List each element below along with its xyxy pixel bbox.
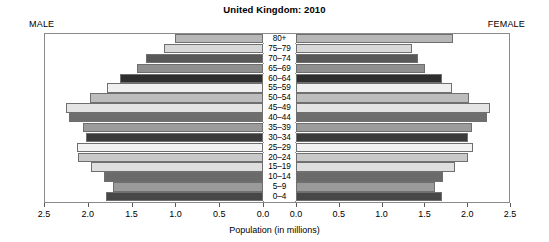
x-tick-label-female: 0.5: [322, 209, 356, 219]
age-group-label: 10–14: [263, 172, 296, 181]
bar-female-10-14: [296, 172, 443, 181]
bar-female-70-74: [296, 54, 418, 63]
bar-male-25-29: [77, 143, 263, 152]
bar-male-0-4: [106, 192, 263, 201]
x-tick-male: [175, 203, 176, 207]
bar-female-15-19: [296, 162, 455, 171]
x-tick-female: [382, 203, 383, 207]
x-tick-male: [263, 203, 264, 207]
x-tick-female: [467, 203, 468, 207]
bar-female-25-29: [296, 143, 473, 152]
bar-male-10-14: [104, 172, 263, 181]
age-group-label: 80+: [263, 34, 296, 43]
bar-male-40-44: [69, 113, 263, 122]
bar-male-5-9: [113, 182, 263, 191]
bar-female-60-64: [296, 74, 442, 83]
bar-male-65-69: [137, 64, 263, 73]
x-tick-male: [132, 203, 133, 207]
x-tick-label-female: 2.5: [493, 209, 527, 219]
age-group-label: 40–44: [263, 113, 296, 122]
age-group-label: 70–74: [263, 54, 296, 63]
bar-male-35-39: [83, 123, 263, 132]
bar-male-55-59: [107, 83, 263, 92]
x-tick-male: [88, 203, 89, 207]
bar-male-30-34: [86, 133, 263, 142]
bar-male-80+: [175, 34, 263, 43]
x-tick-label-male: 0.5: [202, 209, 236, 219]
age-group-label: 65–69: [263, 64, 296, 73]
age-group-label: 15–19: [263, 162, 296, 171]
bar-female-40-44: [296, 113, 487, 122]
bar-male-20-24: [78, 153, 263, 162]
bar-male-60-64: [120, 74, 263, 83]
population-pyramid-figure: United Kingdom: 2010 MALE FEMALE 2.52.01…: [0, 0, 549, 242]
bar-female-45-49: [296, 103, 490, 112]
x-tick-male: [219, 203, 220, 207]
bar-male-15-19: [91, 162, 263, 171]
age-group-label: 30–34: [263, 133, 296, 142]
age-group-label: 55–59: [263, 83, 296, 92]
age-group-label: 20–24: [263, 153, 296, 162]
x-tick-female: [296, 203, 297, 207]
age-group-label: 45–49: [263, 103, 296, 112]
bar-male-50-54: [90, 93, 263, 102]
bar-female-0-4: [296, 192, 442, 201]
bar-male-70-74: [146, 54, 263, 63]
bar-female-65-69: [296, 64, 425, 73]
x-tick-label-male: 2.5: [27, 209, 61, 219]
x-tick-label-female: 2.0: [450, 209, 484, 219]
bar-female-50-54: [296, 93, 469, 102]
bar-female-75-79: [296, 44, 412, 53]
x-tick-label-female: 1.0: [365, 209, 399, 219]
x-tick-female: [339, 203, 340, 207]
x-axis-title: Population (in millions): [0, 225, 549, 235]
x-tick-label-male: 0.0: [246, 209, 280, 219]
x-tick-female: [424, 203, 425, 207]
bar-female-80+: [296, 34, 453, 43]
bar-female-30-34: [296, 133, 468, 142]
x-tick-label-male: 1.5: [115, 209, 149, 219]
x-tick-female: [510, 203, 511, 207]
age-group-label: 25–29: [263, 143, 296, 152]
bar-female-55-59: [296, 83, 452, 92]
x-tick-label-male: 2.0: [71, 209, 105, 219]
x-tick-label-female: 0.0: [279, 209, 313, 219]
bar-female-20-24: [296, 153, 468, 162]
age-group-label: 60–64: [263, 74, 296, 83]
bar-female-5-9: [296, 182, 435, 191]
age-group-label: 50–54: [263, 93, 296, 102]
bar-male-75-79: [164, 44, 263, 53]
age-group-label: 0–4: [263, 192, 296, 201]
x-tick-label-female: 1.5: [407, 209, 441, 219]
x-tick-male: [44, 203, 45, 207]
age-group-label: 75–79: [263, 44, 296, 53]
age-group-label: 5–9: [263, 182, 296, 191]
x-tick-label-male: 1.0: [158, 209, 192, 219]
age-group-label: 35–39: [263, 123, 296, 132]
bar-male-45-49: [66, 103, 263, 112]
bar-female-35-39: [296, 123, 472, 132]
